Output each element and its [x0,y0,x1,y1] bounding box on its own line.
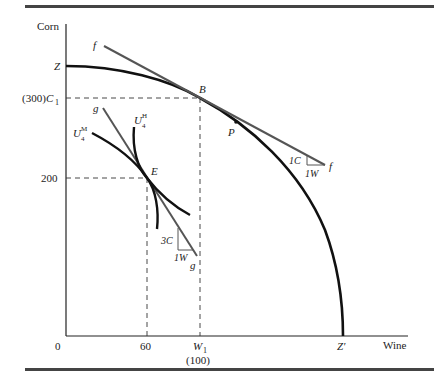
u4m-sup: M [81,125,88,133]
f-slope-c-label: 1C [289,155,301,166]
ppf-curve [66,66,343,336]
x-axis-label: Wine [383,339,406,351]
g-top-label: g [93,102,99,114]
c1-symbol-label: C [46,92,54,104]
c1-value-label: (300) [22,92,46,105]
f-top-label: f [93,39,98,51]
point-p-label: P [227,126,235,138]
tick-200-label: 200 [41,172,58,184]
tick-60-label: 60 [140,340,152,352]
z-prime-label: Z′ [337,340,346,352]
origin-label: 0 [55,340,61,352]
z-label: Z [54,60,61,72]
g-bottom-label: g [190,259,196,271]
indifference-curve-u4m [92,133,190,215]
point-b-label: B [199,83,206,95]
production-possibility-diagram: Corn Wine 0 Z (300) C 1 200 60 W 1 (100)… [0,0,434,386]
w1-value-label: (100) [186,354,210,367]
bottom-rule [25,368,434,371]
u4h-sup: H [142,112,147,120]
u4h-sub: 4 [142,122,146,130]
y-axis-label: Corn [37,20,60,32]
w1-symbol-label: W [193,340,203,352]
g-slope-c-label: 3C [160,235,173,246]
u4m-sub: 4 [81,135,85,143]
c1-sub-label: 1 [55,98,59,107]
f-bottom-label: f [329,160,334,172]
top-rule [25,5,434,8]
point-p-marker [234,120,238,124]
price-line-f [104,46,325,165]
point-e-label: E [150,165,158,177]
f-slope-w-label: 1W [305,168,320,179]
indifference-curve-u4h [134,127,158,229]
g-slope-w-label: 1W [174,252,189,263]
